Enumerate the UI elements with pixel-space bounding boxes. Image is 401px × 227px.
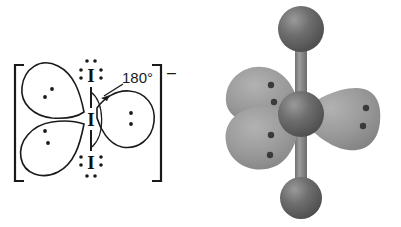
angle-label: 180° <box>122 69 153 86</box>
right-lobe-dots <box>129 111 133 126</box>
top-iodine-symbol: I <box>87 65 94 86</box>
three-d-model-panel <box>200 0 401 227</box>
central-iodine-sphere <box>278 91 324 137</box>
charge-label: – <box>167 64 176 81</box>
central-iodine-atom: I <box>87 109 94 130</box>
central-iodine-symbol: I <box>87 109 94 130</box>
bottom-iodine-symbol: I <box>87 152 94 173</box>
top-iodine-atom: I <box>79 59 103 86</box>
chemistry-figure: – <box>0 0 401 227</box>
lewis-structure-panel: – <box>0 0 200 227</box>
lower-left-lobe <box>21 121 84 175</box>
bottom-iodine-sphere <box>280 177 322 219</box>
lower-left-lobe-dots <box>43 129 50 145</box>
top-iodine-sphere <box>278 6 324 52</box>
upper-left-lobe-dots <box>43 87 54 99</box>
bottom-iodine-atom: I <box>79 152 103 178</box>
